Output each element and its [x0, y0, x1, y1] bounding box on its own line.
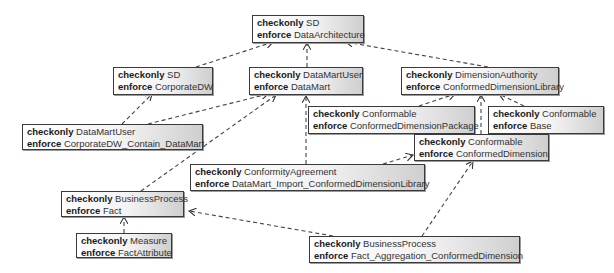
checkonly-value: BusinessProcess [115, 193, 188, 204]
checkonly-value: DataMartUser [76, 126, 135, 137]
checkonly-keyword: checkonly [406, 69, 452, 80]
checkonly-value: Conformable [362, 108, 416, 119]
enforce-keyword: enforce [195, 178, 229, 189]
checkonly-keyword: checkonly [314, 238, 360, 249]
enforce-value: FactAttribute [118, 247, 172, 258]
node-measure-factattribute[interactable]: checkonly Measure enforce FactAttribute [76, 233, 172, 258]
enforce-value: DataMart [291, 81, 330, 92]
node-businessprocess-aggregation[interactable]: checkonly BusinessProcess enforce Fact_A… [309, 236, 520, 263]
checkonly-value: SD [306, 17, 319, 28]
enforce-value: Base [530, 120, 552, 131]
checkonly-value: Conformable [542, 108, 596, 119]
checkonly-value: BusinessProcess [363, 238, 436, 249]
edge-contain-to-corpdw [122, 94, 152, 124]
node-conformable-conformeddimension[interactable]: checkonly Conformable enforce ConformedD… [414, 134, 549, 161]
enforce-keyword: enforce [27, 138, 61, 149]
enforce-value: Fact [103, 205, 121, 216]
edge-agreement-to-confdim [383, 155, 413, 164]
enforce-value: DataArchitecture [294, 29, 365, 40]
edge-corpdw-to-dataarch [196, 42, 273, 67]
checkonly-keyword: checkonly [66, 193, 112, 204]
enforce-keyword: enforce [314, 250, 348, 261]
checkonly-keyword: checkonly [81, 235, 127, 246]
enforce-value: CorporateDW_Contain_DataMart [64, 138, 204, 149]
checkonly-keyword: checkonly [313, 108, 359, 119]
enforce-keyword: enforce [313, 120, 347, 131]
checkonly-value: SD [167, 69, 180, 80]
edge-base-to-dimauth [499, 94, 524, 106]
edge-dimauth-to-dataarch [346, 42, 488, 67]
enforce-value: ConformedDimensionPackage [350, 120, 479, 131]
checkonly-value: ConformityAgreement [244, 166, 336, 177]
node-conformable-package[interactable]: checkonly Conformable enforce ConformedD… [308, 106, 475, 134]
enforce-value: ConformedDimensionLibrary [443, 81, 564, 92]
enforce-value: ConformedDimension [456, 148, 548, 159]
enforce-keyword: enforce [66, 205, 100, 216]
enforce-keyword: enforce [419, 148, 453, 159]
node-dimensionauthority-library[interactable]: checkonly DimensionAuthority enforce Con… [401, 67, 559, 95]
checkonly-keyword: checkonly [27, 126, 73, 137]
node-conformable-base[interactable]: checkonly Conformable enforce Base [488, 106, 604, 134]
checkonly-keyword: checkonly [195, 166, 241, 177]
enforce-keyword: enforce [257, 29, 291, 40]
checkonly-keyword: checkonly [493, 108, 539, 119]
checkonly-keyword: checkonly [254, 69, 300, 80]
enforce-value: CorporateDW [155, 81, 213, 92]
checkonly-value: DataMartUser [303, 69, 362, 80]
enforce-keyword: enforce [493, 120, 527, 131]
dependency-diagram: checkonly SD enforce DataArchitecture ch… [0, 0, 614, 273]
edge-agg-to-confdim [422, 161, 473, 236]
checkonly-keyword: checkonly [419, 136, 465, 147]
node-sd-corporatedw[interactable]: checkonly SD enforce CorporateDW [113, 67, 213, 95]
node-businessprocess-fact[interactable]: checkonly BusinessProcess enforce Fact [61, 191, 184, 217]
edge-package-to-dimauth [419, 94, 455, 106]
checkonly-keyword: checkonly [118, 69, 164, 80]
enforce-keyword: enforce [118, 81, 152, 92]
checkonly-keyword: checkonly [257, 17, 303, 28]
checkonly-value: Conformable [468, 136, 522, 147]
edge-contain-to-datamart [148, 94, 268, 124]
node-sd-dataarchitecture[interactable]: checkonly SD enforce DataArchitecture [252, 15, 364, 43]
checkonly-value: DimensionAuthority [455, 69, 537, 80]
checkonly-value: Measure [130, 235, 167, 246]
enforce-value: DataMart_Import_ConformedDimensionLibrar… [232, 178, 429, 189]
node-datamartuser-contain[interactable]: checkonly DataMartUser enforce Corporate… [22, 124, 203, 150]
enforce-keyword: enforce [406, 81, 440, 92]
enforce-value: Fact_Aggregation_ConformedDimension [351, 250, 523, 261]
node-conformityagreement-import[interactable]: checkonly ConformityAgreement enforce Da… [190, 164, 425, 191]
enforce-keyword: enforce [254, 81, 288, 92]
node-datamartuser-datamart[interactable]: checkonly DataMartUser enforce DataMart [249, 67, 363, 95]
enforce-keyword: enforce [81, 247, 115, 258]
edge-agg-to-bpfact [189, 211, 333, 236]
